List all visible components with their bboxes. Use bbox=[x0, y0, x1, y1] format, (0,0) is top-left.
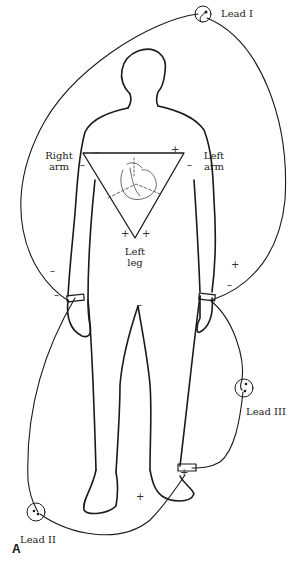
lead-2-label: Lead II bbox=[20, 534, 56, 545]
minus-sign: – bbox=[80, 160, 85, 170]
plus-sign: + bbox=[180, 468, 188, 478]
heart-sketch bbox=[108, 158, 160, 200]
human-figure bbox=[68, 49, 216, 513]
lead-3-electrode bbox=[235, 379, 253, 397]
lead-2-wire-lower bbox=[40, 475, 185, 535]
left-leg-label: Left leg bbox=[122, 246, 148, 268]
lead-2-electrode bbox=[27, 503, 45, 521]
plus-sign: + bbox=[136, 492, 144, 502]
plus-sign: + bbox=[171, 145, 179, 155]
lead-3-label: Lead III bbox=[246, 406, 286, 417]
lead-2-wire-upper bbox=[28, 298, 75, 512]
limb-lead-illustration bbox=[0, 0, 301, 564]
minus-sign: – bbox=[187, 160, 192, 170]
lead-1-label: Lead I bbox=[221, 8, 253, 19]
einthoven-triangle bbox=[83, 153, 184, 238]
plus-sign: + bbox=[121, 229, 129, 239]
plus-sign: + bbox=[142, 229, 150, 239]
lead-3-wire-lower bbox=[192, 392, 243, 468]
minus-sign: – bbox=[94, 147, 99, 157]
right-arm-label: Right arm bbox=[42, 150, 76, 172]
minus-sign: – bbox=[227, 280, 232, 290]
minus-sign: – bbox=[137, 300, 142, 310]
minus-sign: – bbox=[54, 290, 59, 300]
figure-label: A bbox=[12, 542, 21, 556]
plus-sign: + bbox=[231, 260, 239, 270]
left-arm-label: Left arm bbox=[200, 150, 228, 172]
lead-3-wire-upper bbox=[210, 300, 243, 390]
minus-sign: – bbox=[50, 266, 55, 276]
